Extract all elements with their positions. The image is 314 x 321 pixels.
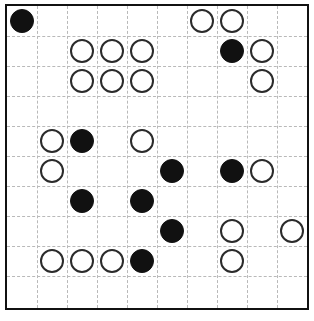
gridline-vertical	[277, 6, 278, 308]
stone-board-app: Stone Grid Puzzle	[0, 0, 314, 321]
white-stone[interactable]	[40, 129, 64, 153]
board-grid[interactable]	[7, 6, 307, 308]
white-stone[interactable]	[100, 39, 124, 63]
black-stone[interactable]	[130, 249, 154, 273]
gridline-vertical	[247, 6, 248, 308]
gridline-vertical	[187, 6, 188, 308]
black-stone[interactable]	[160, 159, 184, 183]
black-stone[interactable]	[160, 219, 184, 243]
white-stone[interactable]	[250, 39, 274, 63]
white-stone[interactable]	[280, 219, 304, 243]
gridline-horizontal	[7, 246, 307, 247]
white-stone[interactable]	[250, 159, 274, 183]
white-stone[interactable]	[40, 249, 64, 273]
black-stone[interactable]	[130, 189, 154, 213]
white-stone[interactable]	[250, 69, 274, 93]
white-stone[interactable]	[130, 69, 154, 93]
black-stone[interactable]	[70, 189, 94, 213]
white-stone[interactable]	[100, 69, 124, 93]
black-stone[interactable]	[70, 129, 94, 153]
black-stone[interactable]	[220, 159, 244, 183]
white-stone[interactable]	[70, 249, 94, 273]
gridline-horizontal	[7, 156, 307, 157]
gridline-vertical	[217, 6, 218, 308]
gridline-vertical	[127, 6, 128, 308]
white-stone[interactable]	[40, 159, 64, 183]
gridline-horizontal	[7, 36, 307, 37]
gridline-horizontal	[7, 66, 307, 67]
gridline-vertical	[157, 6, 158, 308]
white-stone[interactable]	[130, 129, 154, 153]
gridline-horizontal	[7, 126, 307, 127]
gridline-horizontal	[7, 216, 307, 217]
black-stone[interactable]	[220, 39, 244, 63]
gridline-horizontal	[7, 276, 307, 277]
white-stone[interactable]	[100, 249, 124, 273]
white-stone[interactable]	[190, 9, 214, 33]
gridline-vertical	[67, 6, 68, 308]
gridline-horizontal	[7, 96, 307, 97]
white-stone[interactable]	[130, 39, 154, 63]
gridline-vertical	[97, 6, 98, 308]
white-stone[interactable]	[220, 249, 244, 273]
black-stone[interactable]	[10, 9, 34, 33]
white-stone[interactable]	[70, 39, 94, 63]
white-stone[interactable]	[220, 219, 244, 243]
board-frame	[5, 4, 309, 310]
white-stone[interactable]	[220, 9, 244, 33]
gridline-horizontal	[7, 186, 307, 187]
gridline-vertical	[37, 6, 38, 308]
page-title: Stone Grid Puzzle	[0, 21, 1, 22]
white-stone[interactable]	[70, 69, 94, 93]
